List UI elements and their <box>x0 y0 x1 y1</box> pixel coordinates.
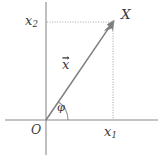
x-component-label: x1 <box>104 125 117 140</box>
vector-label: x <box>62 58 69 71</box>
y-component-label-sub: 2 <box>33 19 38 29</box>
vector-label-stack: x <box>62 58 69 71</box>
origin-label: O <box>31 124 41 137</box>
vector-shaft <box>46 26 110 120</box>
angle-phi-label: φ <box>57 102 65 114</box>
vector-overset-arrow-icon <box>62 54 69 61</box>
vector-diagram-figure: x2 x1 X O φ x <box>0 0 164 163</box>
point-x-label: X <box>121 8 131 22</box>
y-component-label: x2 <box>25 14 38 29</box>
x-component-label-base: x <box>104 124 111 139</box>
y-component-label-base: x <box>25 13 32 28</box>
x-component-label-sub: 1 <box>112 130 117 140</box>
